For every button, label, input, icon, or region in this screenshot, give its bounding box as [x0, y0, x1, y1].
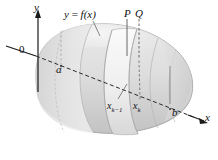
curve-func: f(x) [81, 8, 96, 20]
figure-canvas [0, 0, 218, 160]
right-bound-label: b [172, 107, 178, 118]
left-bound-label: a [56, 64, 62, 75]
slice-left-label: xk−1 [107, 101, 122, 114]
slice-right-sub: k [137, 106, 140, 113]
point-p-label: P [124, 8, 131, 19]
x-axis-label: x [205, 112, 210, 123]
solid-of-revolution-figure: y 0 y = f(x) P Q a xk−1 xk b x [0, 0, 218, 160]
curve-equation-label: y = f(x) [64, 9, 96, 20]
slice-left-sub: k−1 [111, 106, 122, 113]
origin-label: 0 [19, 44, 25, 55]
curve-equals: = [69, 8, 81, 20]
slice-right-label: xk [133, 101, 140, 114]
point-q-label: Q [135, 8, 143, 19]
y-axis-label: y [34, 2, 39, 13]
tick-b [169, 108, 171, 110]
